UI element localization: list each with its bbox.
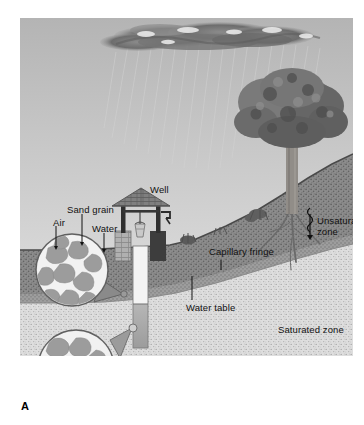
panel-letter: A bbox=[21, 400, 29, 412]
label-unsaturated-zone-line2: zone bbox=[317, 226, 353, 237]
label-water-table: Water table bbox=[186, 302, 235, 313]
well-windlass bbox=[123, 210, 159, 213]
well-wall-left bbox=[115, 231, 131, 261]
label-air: Air bbox=[53, 217, 65, 228]
label-sand-grain: Sand grain bbox=[67, 204, 114, 215]
tree-trunk bbox=[286, 146, 298, 214]
label-well: Well bbox=[150, 184, 169, 195]
well-shaft-upper bbox=[133, 246, 148, 304]
label-water: Water bbox=[92, 223, 117, 234]
magnifier-sample-point-lower bbox=[129, 324, 137, 332]
illustration-panel: Well Sand grain Air Water Capillary frin… bbox=[20, 18, 353, 356]
figure-root: Well Sand grain Air Water Capillary frin… bbox=[0, 0, 364, 425]
label-saturated-zone: Saturated zone bbox=[278, 324, 344, 335]
label-capillary-fringe: Capillary fringe bbox=[209, 246, 274, 257]
label-unsaturated-zone: Unsaturated zone bbox=[317, 215, 353, 237]
well-wall-right bbox=[150, 231, 166, 261]
magnifier-sample-point-upper bbox=[121, 291, 127, 297]
well-bucket bbox=[135, 224, 145, 237]
label-unsaturated-zone-line1: Unsaturated bbox=[317, 215, 353, 226]
